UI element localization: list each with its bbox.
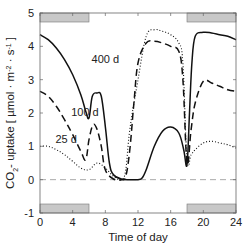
y-tick-label: 0 (28, 174, 34, 186)
series-annotations: 400 d100 d25 d (55, 53, 119, 145)
chart-container: 04812162024-1012345 400 d100 d25 d Time … (0, 0, 248, 247)
dark-period-bar-top-1 (187, 13, 236, 22)
series-lines (40, 29, 236, 180)
plot-frame (40, 13, 236, 213)
y-tick-label: 3 (28, 74, 34, 86)
y-tick-label: 2 (28, 107, 34, 119)
series-400-d (40, 32, 236, 180)
series-25-d (40, 29, 236, 180)
dark-period-bar-bottom-1 (187, 204, 236, 213)
series-annotation: 400 d (92, 53, 120, 65)
y-tick-label: 4 (28, 40, 34, 52)
x-tick-label: 20 (197, 216, 209, 228)
x-tick-label: 4 (70, 216, 76, 228)
x-tick-label: 16 (165, 216, 177, 228)
y-axis-label: CO2- uptake [ µmol · m-2 · s-1 ] (4, 37, 19, 189)
y-tick-label: -1 (24, 207, 34, 219)
dark-period-bars (40, 13, 236, 213)
series-annotation: 25 d (55, 133, 76, 145)
series-annotation: 100 d (71, 106, 99, 118)
x-tick-label: 12 (132, 216, 144, 228)
dark-period-bar-bottom-0 (40, 204, 89, 213)
y-tick-label: 5 (28, 7, 34, 19)
dark-period-bar-top-0 (40, 13, 89, 22)
x-tick-label: 24 (230, 216, 242, 228)
x-tick-label: 0 (37, 216, 43, 228)
line-chart: 04812162024-1012345 400 d100 d25 d Time … (0, 0, 248, 247)
x-tick-label: 8 (102, 216, 108, 228)
y-tick-label: 1 (28, 140, 34, 152)
x-axis-label: Time of day (108, 231, 168, 243)
